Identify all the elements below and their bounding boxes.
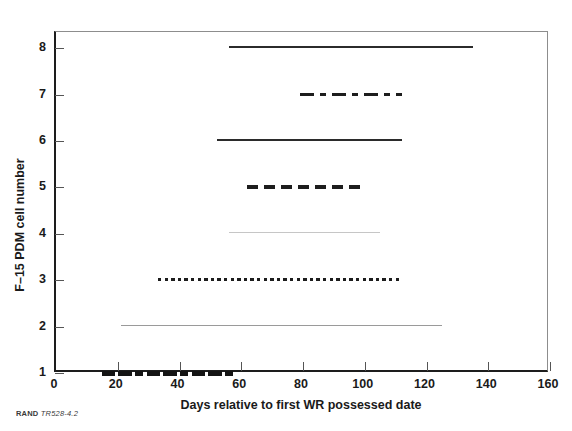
x-axis-tick-label-0: 0 [34,378,74,391]
x-axis-tick-label-120: 120 [405,378,445,391]
x-axis-tick-80 [303,362,304,371]
y-axis-tick-label-2: 2 [22,320,46,333]
x-axis-tick-20 [118,362,119,371]
data-series-cell-4 [229,232,380,233]
source-credit: RAND TR528-4.2 [16,409,78,418]
y-axis-tick-label-5: 5 [22,180,46,193]
y-axis-tick-2 [55,327,64,328]
y-axis-tick-label-1: 1 [22,366,46,379]
plot-area [54,31,548,372]
x-axis-tick-160 [550,362,551,371]
y-axis-tick-5 [55,187,64,188]
y-axis-tick-label-7: 7 [22,88,46,101]
x-axis-title: Days relative to first WR possessed date [54,398,548,412]
x-axis-tick-label-80: 80 [281,378,321,391]
data-series-cell-5 [247,185,364,188]
y-axis-tick-6 [55,141,64,142]
data-series-cell-8 [229,46,473,48]
x-axis-tick-label-100: 100 [343,378,383,391]
data-series-cell-3 [158,278,402,281]
x-axis-tick-label-20: 20 [96,378,136,391]
x-axis-tick-label-140: 140 [466,378,506,391]
x-axis-tick-60 [241,362,242,371]
y-axis-tick-7 [55,95,64,96]
x-axis-tick-label-160: 160 [528,378,568,391]
data-series-cell-1 [102,371,235,376]
chart-figure: F–15 PDM cell number 12345678 0204060801… [0,0,572,431]
y-axis-tick-label-3: 3 [22,273,46,286]
y-axis-tick-label-8: 8 [22,41,46,54]
y-axis-tick-1 [55,373,64,374]
x-axis-tick-120 [427,362,428,371]
data-series-cell-7 [300,93,402,96]
x-axis-tick-100 [365,362,366,371]
x-axis-tick-label-60: 60 [219,378,259,391]
x-axis-tick-40 [180,362,181,371]
source-credit-org: RAND [16,409,38,418]
y-axis-tick-label-6: 6 [22,134,46,147]
y-axis-tick-4 [55,234,64,235]
x-axis-tick-label-40: 40 [158,378,198,391]
data-series-cell-6 [217,139,402,141]
y-axis-tick-3 [55,280,64,281]
y-axis-tick-8 [55,48,64,49]
data-series-cell-2 [121,325,442,326]
x-axis-tick-140 [488,362,489,371]
source-credit-id: TR528-4.2 [41,409,78,418]
y-axis-title-text: F–15 PDM cell number [13,158,27,291]
y-axis-tick-label-4: 4 [22,227,46,240]
